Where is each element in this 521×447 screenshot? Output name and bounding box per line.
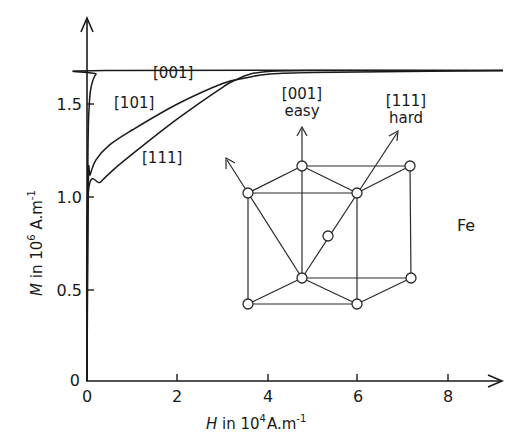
atom-front-top-right [352,188,362,198]
label-111-curve: [111] [142,149,182,167]
chart-svg: 0 2 4 6 8 0 0.5 1.0 1.5 H in 104A.m-1 M … [0,0,521,447]
side-arrowhead-icon [226,158,235,169]
x-tick-label: 8 [443,387,453,406]
bcc-lattice-diagram [226,127,416,309]
atom-front-top-left [243,188,253,198]
hard-direction-label: [111] [386,92,426,110]
x-tick-labels: 0 2 4 6 8 [82,387,453,406]
y-tick-label: 0 [70,371,80,390]
hard-arrowhead-icon [389,131,398,141]
y-axis-variable: M [28,283,46,296]
x-tick-label: 6 [353,387,363,406]
x-tick-label: 4 [263,387,273,406]
easy-direction-label: [001] [282,85,322,103]
y-tick-labels: 0 0.5 1.0 1.5 [57,95,82,390]
atom-back-top-left [297,161,307,171]
easy-label: easy [284,102,319,120]
atom-back-bottom-right [406,273,416,283]
y-axis-title: M in 106 A.m-1 [26,190,46,296]
x-tick-label: 2 [172,387,182,406]
label-001-curve: [001] [153,64,193,82]
y-tick-label: 0.5 [57,281,82,300]
atom-front-bottom-right [352,299,362,309]
y-tick-label: 1.0 [57,188,82,207]
atom-body-center [323,231,333,241]
label-101-curve: [101] [114,94,154,112]
x-axis-variable: H [206,415,217,433]
atom-back-top-right [405,161,415,171]
y-tick-label: 1.5 [57,95,82,114]
element-label: Fe [457,216,475,235]
side-direction-arrow [227,160,248,193]
x-ticks [177,374,448,381]
x-axis-title: H in 104A.m-1 [206,413,306,433]
atom-back-bottom-left [297,273,307,283]
magnetization-chart: 0 2 4 6 8 0 0.5 1.0 1.5 H in 104A.m-1 M … [0,0,521,447]
atom-front-bottom-left [243,299,253,309]
hard-label: hard [389,109,423,127]
lattice-atoms [243,161,416,309]
hard-direction-arrow [302,133,397,278]
x-tick-label: 0 [82,387,92,406]
